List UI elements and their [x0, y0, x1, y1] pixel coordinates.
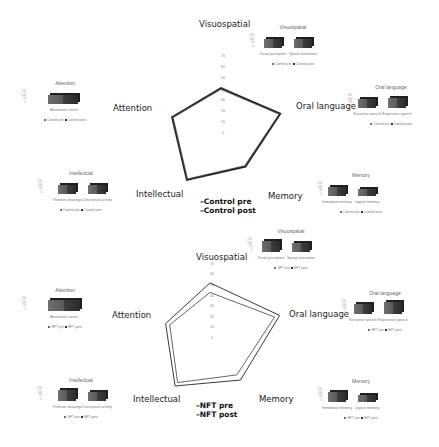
top-axis-label-attention: Attention — [113, 103, 152, 113]
mini-legend: NFT pre NFT post — [20, 325, 110, 329]
top-mini-chart-memory: Memory 150100500 Immediate memory Logica… — [316, 172, 406, 214]
top-mini-chart-attention: Attention 150100500 Attentional control … — [20, 80, 110, 122]
mini-y-axis: 150100500 — [20, 297, 26, 311]
top-mini-chart-intellectual: Intellectual 150100500 Thematic drawings… — [36, 170, 126, 212]
mini-legend: Control pre Control post — [36, 208, 126, 212]
mini-legend: NFT pre NFT post — [246, 266, 336, 270]
mini-bar — [384, 302, 402, 314]
bottom-axis-label-visuospatial: Visuospatial — [196, 252, 247, 262]
radar-tick-label: 20 — [210, 315, 214, 319]
legend-control-post: –Control post — [200, 206, 256, 215]
mini-bar — [388, 98, 406, 108]
mini-title: Memory — [316, 378, 406, 384]
mini-bar — [328, 187, 346, 196]
mini-title: Intellectual — [36, 377, 126, 383]
legend-nft-pre: –NFT pre — [196, 401, 237, 410]
radar-tick-label: 0 — [211, 336, 213, 340]
mini-title: Visuospatial — [246, 228, 336, 234]
bottom-mini-chart-oral-language: Oral language 150100500 Receptive speech… — [340, 290, 430, 332]
mini-category-label: Expressive speech — [378, 318, 408, 322]
mini-category-label: Receptive speech — [352, 112, 382, 116]
mini-category-label: Immediate memory — [322, 406, 352, 410]
legend-nft-post: –NFT post — [196, 410, 237, 419]
bottom-axis-label-memory: Memory — [259, 394, 294, 404]
radar-tick-label: 30 — [221, 98, 225, 102]
radar-tick-label: 60 — [210, 272, 214, 276]
mini-legend: NFT pre NFT post — [316, 416, 406, 420]
mini-bar — [88, 185, 106, 194]
top-legend: –Control pre –Control post — [200, 197, 256, 215]
mini-legend: Control pre Control post — [346, 122, 436, 126]
bottom-mini-chart-intellectual: Intellectual 150100500 Thematic drawings… — [36, 377, 126, 419]
mini-legend: NFT pre NFT post — [36, 415, 126, 419]
radar-tick-label: 70 — [221, 54, 225, 58]
mini-y-axis: 150100500 — [36, 387, 42, 401]
mini-title: Memory — [316, 172, 406, 178]
radar-tick-label: 50 — [221, 76, 225, 80]
mini-bar — [358, 99, 376, 108]
mini-category-label: Expressive speech — [382, 112, 412, 116]
top-axis-label-intellectual: Intellectual — [136, 189, 183, 199]
mini-bar — [88, 392, 106, 401]
mini-y-axis: 150100500 — [36, 180, 42, 194]
mini-bar — [354, 304, 372, 314]
radar-tick-label: 20 — [221, 109, 225, 113]
mini-category-label: Immediate memory — [322, 200, 352, 204]
radar-tick-label: 70 — [210, 262, 214, 266]
mini-y-axis: 150100500 — [316, 182, 322, 196]
mini-category-label: Conceptual activity — [82, 198, 112, 202]
mini-bar — [292, 243, 310, 252]
mini-legend: Control pre Control post — [248, 62, 338, 66]
mini-bar — [48, 300, 80, 311]
top-axis-label-visuospatial: Visuospatial — [199, 19, 250, 29]
bottom-axis-label-attention: Attention — [112, 310, 151, 320]
bottom-axis-label-intellectual: Intellectual — [133, 394, 180, 404]
mini-category-label: Spatial orientation — [288, 52, 318, 56]
mini-title: Visuospatial — [248, 24, 338, 30]
mini-y-axis: 150100500 — [340, 300, 346, 314]
top-axis-label-memory: Memory — [268, 191, 303, 201]
radar-series-control-post — [172, 88, 281, 180]
radar-tick-label: 10 — [210, 325, 214, 329]
mini-bar — [328, 392, 346, 402]
mini-y-axis: 150100500 — [316, 388, 322, 402]
mini-category-label: Attentional control — [40, 315, 88, 319]
mini-category-label: Thematic drawings — [52, 405, 82, 409]
bottom-legend: –NFT pre –NFT post — [196, 401, 237, 419]
mini-title: Attention — [20, 80, 110, 86]
mini-bar — [58, 185, 76, 194]
top-mini-chart-visuospatial: Visuospatial 150100500 Visual perception… — [248, 24, 338, 66]
mini-title: Intellectual — [36, 170, 126, 176]
top-mini-chart-oral-language: Oral language 150100500 Receptive speech… — [346, 84, 436, 126]
mini-bar — [262, 241, 280, 252]
mini-legend: NFT pre NFT post — [340, 328, 430, 332]
legend-control-pre: –Control pre — [200, 197, 256, 206]
mini-category-label: Thematic drawings — [52, 198, 82, 202]
mini-category-label: Visual perception — [258, 52, 288, 56]
mini-category-label: Spatial orientation — [286, 256, 316, 260]
radar-tick-label: 0 — [222, 131, 224, 135]
mini-legend: Control pre Control post — [20, 118, 110, 122]
bottom-mini-chart-visuospatial: Visuospatial 150100500 Visual perception… — [246, 228, 336, 270]
radar-tick-label: 60 — [221, 65, 225, 69]
mini-legend: Control pre Control post — [316, 210, 406, 214]
radar-series-nft-post — [166, 283, 280, 386]
mini-category-label: Visual perception — [256, 256, 286, 260]
radar-series-control-pre — [173, 89, 280, 179]
mini-y-axis: 150100500 — [246, 238, 252, 252]
mini-bar — [294, 39, 312, 48]
mini-category-label: Logical memory — [352, 406, 382, 410]
mini-y-axis: 150100500 — [346, 94, 352, 108]
mini-category-label: Logical memory — [352, 200, 382, 204]
bottom-mini-chart-attention: Attention 150100500 Attentional control … — [20, 287, 110, 329]
mini-category-label: Receptive speech — [348, 318, 378, 322]
mini-title: Oral language — [340, 290, 430, 296]
bottom-mini-chart-memory: Memory 150100500 Immediate memory Logica… — [316, 378, 406, 420]
mini-bar — [358, 395, 376, 402]
radar-tick-label: 30 — [210, 304, 214, 308]
mini-title: Attention — [20, 287, 110, 293]
mini-bar — [358, 189, 376, 196]
radar-tick-label: 10 — [221, 120, 225, 124]
mini-category-label: Conceptual activity — [82, 405, 112, 409]
mini-bar — [48, 95, 78, 104]
